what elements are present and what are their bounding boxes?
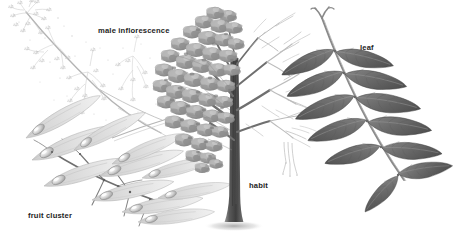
label-leaf: leaf (360, 44, 374, 52)
leaflet (323, 137, 383, 174)
label-male-inflorescence: male inflorescence (98, 27, 170, 35)
leaflet-group (279, 41, 453, 217)
label-habit: habit (249, 182, 268, 190)
label-fruit-cluster: fruit cluster (28, 212, 72, 220)
leaf-petiole-base (311, 7, 334, 18)
leaflet-terminal (361, 171, 402, 218)
leaflet-terminal (397, 161, 453, 181)
leaf-illustration (0, 0, 457, 234)
botanical-plate: male inflorescence fruit cluster habit l… (0, 0, 457, 234)
